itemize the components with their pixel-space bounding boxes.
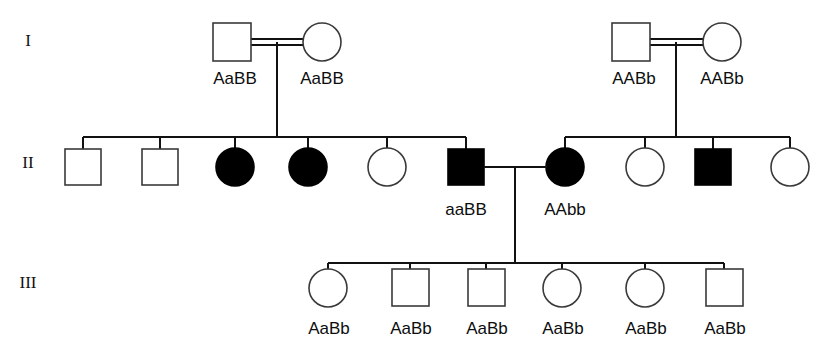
individual-ii-8-circle[interactable]	[626, 148, 664, 186]
individual-ii-6-square-affected[interactable]	[448, 149, 484, 185]
genotype-label-iii-3: AaBb	[466, 319, 508, 338]
individual-ii-7-circle-affected[interactable]	[546, 148, 584, 186]
pedigree-chart: I II III AaBB AaBB AABb AABb	[0, 0, 838, 353]
genotype-label-i-4: AABb	[700, 69, 743, 88]
genotype-label-i-3: AABb	[612, 69, 655, 88]
genotype-label-ii-6: aaBB	[445, 200, 487, 219]
individual-iii-6-square[interactable]	[706, 269, 743, 306]
individual-ii-1-square[interactable]	[65, 149, 101, 185]
genotype-label-iii-5: AaBb	[625, 319, 667, 338]
individual-ii-5-circle[interactable]	[368, 148, 406, 186]
sibship-bar-ii-left	[83, 137, 466, 149]
genotype-label-i-2: AaBB	[300, 69, 343, 88]
genotype-label-iii-2: AaBb	[390, 319, 432, 338]
generation-label-group: I II III	[20, 31, 37, 292]
pedigree-canvas: I II III AaBB AaBB AABb AABb	[0, 0, 838, 353]
genotype-label-ii-7: AAbb	[544, 200, 586, 219]
individual-iii-3-square[interactable]	[468, 269, 505, 306]
mating-line-ii-a	[484, 167, 547, 263]
individual-i-2-circle[interactable]	[303, 23, 341, 61]
individual-iii-5-circle[interactable]	[626, 269, 664, 307]
genotype-label-i-1: AaBB	[213, 69, 256, 88]
individual-i-3-square[interactable]	[612, 23, 650, 61]
genotype-label-iii-6: AaBb	[704, 319, 746, 338]
individual-ii-2-square[interactable]	[142, 149, 178, 185]
mating-line-i-b	[650, 39, 704, 137]
individual-iii-1-circle[interactable]	[309, 269, 347, 307]
generation-label-i: I	[25, 31, 31, 50]
genotype-label-iii-1: AaBb	[308, 319, 350, 338]
individual-ii-9-square-affected[interactable]	[695, 149, 731, 185]
sibship-bar-ii-right	[565, 137, 790, 149]
sibship-bar-iii	[328, 263, 724, 269]
individual-iii-4-circle[interactable]	[543, 269, 581, 307]
individual-iii-2-square[interactable]	[392, 269, 429, 306]
individual-i-4-circle[interactable]	[703, 23, 741, 61]
generation-label-ii: II	[22, 153, 34, 172]
mating-line-i-a	[251, 39, 304, 137]
individual-ii-3-circle-affected[interactable]	[216, 148, 254, 186]
genotype-label-iii-4: AaBb	[542, 319, 584, 338]
individual-i-1-square[interactable]	[213, 23, 251, 61]
generation-label-iii: III	[20, 273, 37, 292]
individual-ii-4-circle-affected[interactable]	[289, 148, 327, 186]
individual-ii-10-circle[interactable]	[771, 148, 809, 186]
